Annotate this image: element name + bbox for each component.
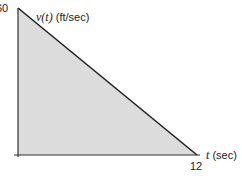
y-axis-variable: v(t): [36, 10, 53, 24]
x-axis-label: t (sec): [206, 148, 237, 163]
x-axis-variable: t: [206, 148, 209, 162]
y-axis-label: v(t) (ft/sec): [36, 10, 89, 25]
y-axis-unit: (ft/sec): [56, 11, 90, 23]
x-axis-unit: (sec): [212, 149, 236, 161]
y-tick-60: 60: [0, 2, 8, 14]
x-tick-12: 12: [190, 160, 202, 172]
